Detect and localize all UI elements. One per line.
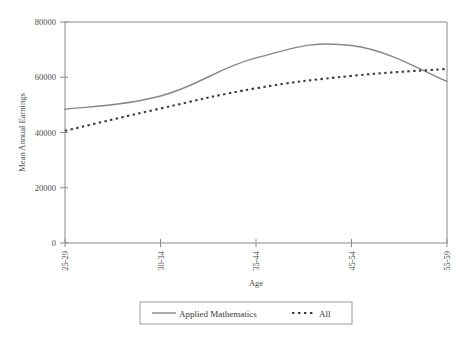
x-axis-title: Age bbox=[249, 278, 263, 288]
y-tick-label-40000: 40000 bbox=[35, 128, 56, 138]
series-line-applied-mathematics bbox=[65, 44, 447, 109]
legend-label-all: All bbox=[319, 309, 331, 319]
y-tick-label-20000: 20000 bbox=[35, 183, 56, 193]
data-series-group bbox=[65, 44, 447, 131]
x-axis-tick-labels: 25-29 30-34 35-44 45-54 55-59 bbox=[60, 250, 452, 271]
line-chart: 0 20000 40000 60000 80000 Mean Annual Ea… bbox=[0, 0, 474, 340]
y-axis-ticks bbox=[60, 22, 68, 243]
legend-label-applied-mathematics: Applied Mathematics bbox=[179, 309, 257, 319]
x-tick-label-35-44: 35-44 bbox=[251, 250, 261, 271]
y-axis-title: Mean Annual Earnings bbox=[17, 93, 27, 171]
x-tick-label-25-29: 25-29 bbox=[60, 251, 70, 271]
y-axis-tick-labels: 0 20000 40000 60000 80000 bbox=[35, 17, 56, 248]
legend: Applied Mathematics All bbox=[140, 302, 352, 324]
chart-figure: 0 20000 40000 60000 80000 Mean Annual Ea… bbox=[0, 0, 474, 340]
y-tick-label-0: 0 bbox=[52, 238, 56, 248]
x-tick-label-55-59: 55-59 bbox=[442, 251, 452, 271]
x-tick-label-30-34: 30-34 bbox=[156, 250, 166, 271]
y-tick-label-60000: 60000 bbox=[35, 72, 56, 82]
series-line-all bbox=[65, 69, 447, 131]
y-tick-label-80000: 80000 bbox=[35, 17, 56, 27]
x-tick-label-45-54: 45-54 bbox=[347, 250, 357, 271]
